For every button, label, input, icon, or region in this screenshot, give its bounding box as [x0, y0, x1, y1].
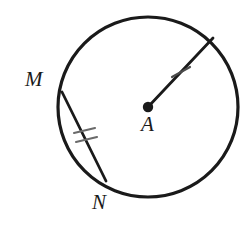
point-label-n: N [92, 192, 106, 213]
geometry-canvas [0, 0, 249, 227]
geometry-figure: M A N [0, 0, 249, 227]
radius-tick-mark [172, 67, 190, 77]
chord-tick-mark-1 [74, 128, 95, 133]
point-label-a: A [141, 114, 154, 135]
chord-segment [62, 92, 106, 181]
center-point-dot [143, 102, 153, 112]
point-label-m: M [25, 69, 43, 90]
